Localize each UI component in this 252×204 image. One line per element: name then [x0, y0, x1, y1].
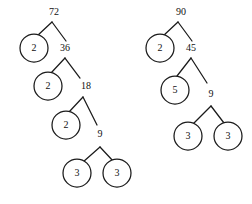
node-label-3-r-right: 3 [226, 130, 231, 141]
edge-45-to-5 [177, 58, 191, 76]
node-label-2-r1: 2 [158, 42, 163, 53]
node-label-2-l2: 2 [46, 80, 51, 91]
prime-node-2-l2: 2 [34, 72, 62, 100]
node-label-36: 36 [60, 42, 70, 53]
node-label-3-left: 3 [75, 167, 80, 178]
prime-node-3-right: 3 [103, 159, 131, 187]
edge-36-to-18 [65, 58, 80, 78]
prime-node-3-left: 3 [63, 159, 91, 187]
factor-tree-90: 90 2 45 5 9 3 3 [146, 6, 242, 150]
edge-9-to-3-left-r [194, 106, 211, 123]
node-label-5: 5 [173, 84, 178, 95]
edge-18-to-2 [69, 97, 83, 112]
factor-trees-figure: 72 2 36 2 18 2 9 [0, 0, 252, 204]
node-label-9-right: 9 [209, 88, 214, 99]
prime-node-3-r-right: 3 [214, 122, 242, 150]
prime-node-2-l1: 2 [20, 34, 48, 62]
node-label-90: 90 [176, 6, 186, 17]
edge-9-to-3-left [83, 147, 100, 162]
edge-72-to-36 [52, 22, 66, 41]
prime-node-2-r1: 2 [146, 34, 174, 62]
edge-72-to-2 [37, 22, 52, 36]
prime-node-5: 5 [161, 76, 189, 104]
edge-45-to-9 [191, 58, 207, 83]
node-label-2-l1: 2 [32, 42, 37, 53]
edge-9-to-3-right-r [211, 106, 224, 123]
node-label-72: 72 [49, 6, 59, 17]
node-label-3-r-left: 3 [186, 130, 191, 141]
node-label-2-l3: 2 [64, 119, 69, 130]
factor-trees-canvas: 72 2 36 2 18 2 9 [0, 0, 252, 204]
node-label-45: 45 [186, 42, 196, 53]
prime-node-2-l3: 2 [52, 111, 80, 139]
edge-90-to-2 [163, 22, 178, 36]
branch-pair-9-right [194, 106, 224, 123]
branch-pair-9-left [83, 147, 114, 162]
node-label-18: 18 [81, 80, 91, 91]
edge-18-to-9 [83, 97, 97, 125]
prime-node-3-r-left: 3 [174, 122, 202, 150]
node-label-9-left: 9 [98, 128, 103, 139]
node-label-3-right: 3 [115, 167, 120, 178]
edge-90-to-45 [178, 22, 192, 41]
edge-36-to-2 [51, 58, 65, 73]
factor-tree-72: 72 2 36 2 18 2 9 [20, 6, 131, 187]
